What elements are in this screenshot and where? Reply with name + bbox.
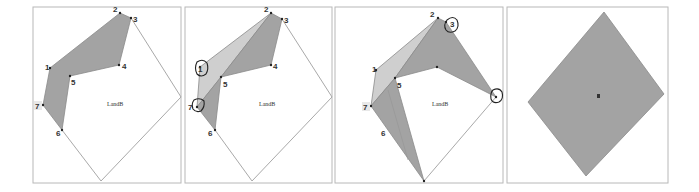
panel-2-label-6: 6	[208, 129, 213, 138]
panel-2-label-3: 3	[284, 16, 289, 25]
panel-3-label-1: 1	[372, 65, 377, 74]
panel-2: 1 2 3 4 5 6 7 LandB	[185, 5, 332, 183]
panel-2-label-4: 4	[273, 62, 278, 71]
panel-1-label-3: 3	[133, 15, 138, 24]
panel-2-region-label: LandB	[259, 101, 275, 107]
panel-3-label-2: 2	[430, 10, 435, 19]
panel-3-region-label: LandB	[432, 101, 448, 107]
panel-1-region-label: LandB	[107, 101, 123, 107]
panel-3-label-6: 6	[381, 129, 386, 138]
panel-3-label-7: 7	[363, 103, 368, 112]
panel-1-label-1: 1	[45, 63, 50, 72]
panel-2-label-1: 1	[198, 65, 203, 74]
panel-1-label-2: 2	[113, 5, 118, 14]
panel-4-center-mark	[597, 94, 600, 98]
panel-4	[507, 7, 668, 183]
panel-1-label-5: 5	[71, 78, 76, 87]
panel-2-label-5: 5	[223, 80, 228, 89]
figure-canvas: 1 2 3 4 5 6 7 LandB 1 2 3 4 5 6 7 LandB	[0, 0, 699, 192]
panel-3: 1 2 3 5 6 7 LandB	[335, 7, 503, 183]
panel-1-label-7: 7	[35, 102, 40, 111]
panel-2-label-7: 7	[188, 103, 193, 112]
panel-3-label-5: 5	[397, 81, 402, 90]
panel-1: 1 2 3 4 5 6 7 LandB	[33, 5, 181, 183]
panel-2-label-2: 2	[264, 5, 269, 14]
panel-1-label-4: 4	[122, 62, 127, 71]
panel-1-label-6: 6	[56, 129, 61, 138]
panel-3-label-3: 3	[450, 20, 455, 29]
panel-3-frame	[335, 7, 503, 183]
